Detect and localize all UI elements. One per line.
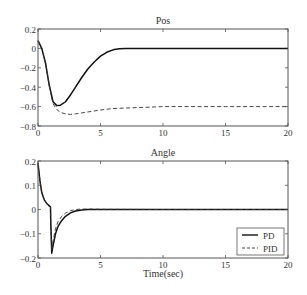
x-tick-label: 15: [221, 128, 231, 138]
y-tick-label: −0.2: [20, 254, 36, 264]
legend-pd-label: PD: [263, 231, 275, 241]
x-tick-label: 0: [36, 260, 41, 270]
y-tick-label: −0.4: [20, 83, 37, 93]
legend-pid-label: PID: [263, 244, 278, 254]
legend: PD PID: [237, 228, 284, 255]
y-tick-label: −0.8: [20, 122, 37, 132]
pos-x-ticks: 05101520: [36, 29, 293, 138]
pos-plot: Pos 0.20−0.2−0.4−0.6−0.8 05101520: [20, 15, 293, 138]
pos-series: [38, 41, 288, 115]
pid-series-line: [38, 41, 288, 115]
x-tick-label: 0: [36, 128, 41, 138]
pd-series-line: [38, 41, 288, 106]
y-tick-label: 0: [32, 205, 37, 215]
x-tick-label: 5: [98, 260, 103, 270]
angle-plot-title: Angle: [151, 147, 176, 158]
y-tick-label: 0.2: [25, 157, 36, 167]
x-tick-label: 20: [284, 128, 294, 138]
pos-y-ticks: 0.20−0.2−0.4−0.6−0.8: [20, 25, 288, 132]
pos-plot-title: Pos: [156, 15, 171, 26]
x-tick-label: 10: [159, 128, 169, 138]
y-tick-label: 0.1: [25, 181, 36, 191]
x-axis-label: Time(sec): [143, 268, 183, 280]
y-tick-label: −0.2: [20, 63, 36, 73]
angle-plot: Angle 0.20.10−0.1−0.2 05101520 Time(sec)…: [20, 147, 293, 280]
y-tick-label: 0.2: [25, 25, 36, 35]
x-tick-label: 15: [221, 260, 231, 270]
y-tick-label: −0.6: [20, 102, 37, 112]
x-tick-label: 5: [98, 128, 103, 138]
pos-plot-frame: [38, 29, 288, 126]
figure: Pos 0.20−0.2−0.4−0.6−0.8 05101520 Angle …: [0, 0, 307, 295]
y-tick-label: −0.1: [20, 229, 36, 239]
x-tick-label: 20: [284, 260, 294, 270]
y-tick-label: 0: [32, 44, 37, 54]
